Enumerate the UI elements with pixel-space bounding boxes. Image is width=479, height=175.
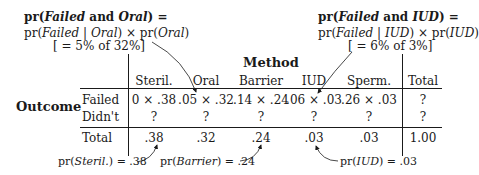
table-cell: ? [124,110,184,124]
text: Oral [118,10,147,24]
divider [80,88,442,89]
text: ) = .38 [109,155,147,168]
divider [80,127,442,128]
column-group-label: Method [243,56,299,70]
table-cell: .32 [176,131,236,145]
text: ) × pr( [117,26,157,40]
table-cell: ? [176,110,236,124]
text: Failed [338,10,379,24]
text: ) × pr( [409,26,449,40]
row-label-failed: Failed [82,93,119,107]
text: ) [474,26,479,40]
text: Barrier [177,155,217,168]
text: and [379,10,412,24]
text: pr( [340,155,357,168]
annotation-failed-and-iud-formula: pr(Failed | IUD) × pr(IUD) [318,26,479,40]
column-header-oral: Oral [176,74,236,88]
text: Failed [44,10,85,24]
table-cell: ? [231,110,291,124]
text: IUD [450,26,474,40]
annotation-failed-and-iud-title: pr(Failed and IUD) = [318,10,459,24]
table-cell: .26 × .03 [339,93,399,107]
row-label-total: Total [82,131,112,145]
table-cell: .14 × .24 [231,93,291,107]
column-header-barrier: Barrier [231,74,291,88]
annotation-failed-and-iud-value: [ = 6% of 3%] [348,39,432,53]
text: pr( [24,10,44,24]
text: Oral [91,26,118,40]
text: pr( [58,155,75,168]
text: ) [185,26,190,40]
annotation-failed-and-oral-title: pr(Failed and Oral) = [24,10,167,24]
text: ) = .24 [217,155,255,168]
divider [402,54,403,156]
table-cell: .06 × .03 [284,93,344,107]
column-header-iud: IUD [284,74,344,88]
annotation-pr-steril: pr(Steril.) = .38 [58,155,147,169]
annotation-pr-barrier: pr(Barrier) = .24 [160,155,255,169]
annotation-failed-and-oral-value: [ = 5% of 32%] [53,39,145,53]
text: ) = [148,10,168,24]
text: Failed [336,26,373,40]
text: pr( [318,10,338,24]
table-cell: ? [284,110,344,124]
text: IUD [385,26,409,40]
row-group-label: Outcome [16,100,81,114]
text: pr( [24,26,42,40]
text: IUD [412,10,438,24]
text: ) = .03 [379,155,417,168]
table-cell: .38 [124,131,184,145]
annotation-failed-and-oral-formula: pr(Failed | Oral) × pr(Oral) [24,26,189,40]
text: ) = [439,10,459,24]
column-header-steril: Steril. [124,74,184,88]
table-cell: ? [339,110,399,124]
table-cell: 0 × .38 [124,93,184,107]
table-cell: .03 [339,131,399,145]
table-cell: .05 × .32 [176,93,236,107]
text: pr( [160,155,177,168]
column-header-sperm: Sperm. [339,74,399,88]
text: | [373,26,385,40]
row-label-didnt: Didn't [82,110,119,124]
annotation-pr-iud: pr(IUD) = .03 [340,155,417,169]
text: | [79,26,91,40]
text: Oral [158,26,185,40]
text: IUD [357,155,379,168]
divider [128,54,129,156]
arrow-icon [316,146,338,161]
text: Steril. [75,155,109,168]
table-cell: .24 [231,131,291,145]
table-cell: .03 [284,131,344,145]
text: Failed [42,26,79,40]
text: and [85,10,118,24]
text: pr( [318,26,336,40]
